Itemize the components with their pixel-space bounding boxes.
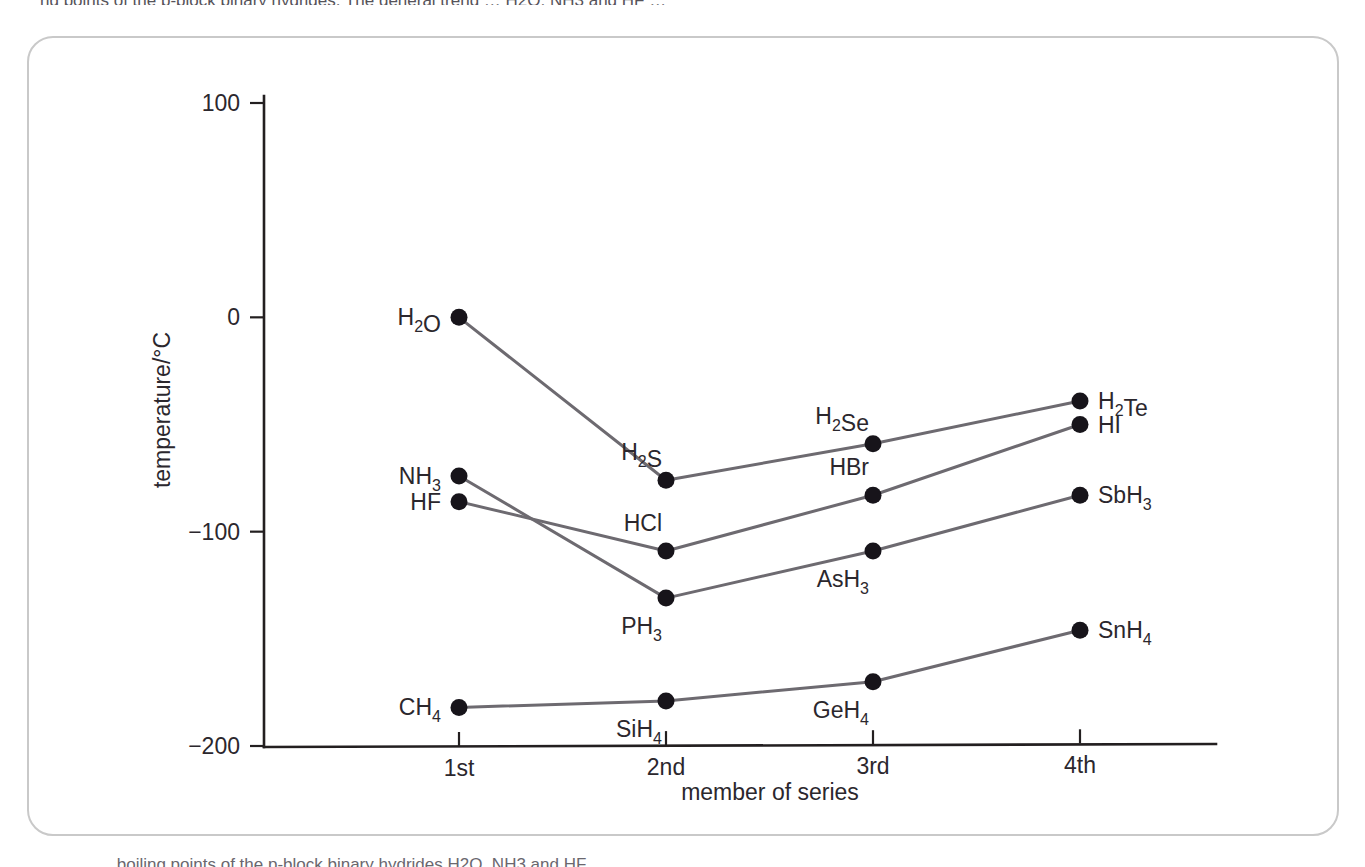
data-point[interactable]: [451, 493, 468, 510]
x-tick-label: 4th: [1064, 752, 1096, 778]
y-tick-label: 100: [202, 90, 240, 116]
line-chart: 1000−100−200 1st2nd3rd4th H2OH2SH2SeH2Te…: [0, 0, 1365, 867]
data-point[interactable]: [451, 309, 468, 326]
data-point[interactable]: [658, 542, 675, 559]
data-points: [451, 309, 1089, 716]
data-point[interactable]: [865, 542, 882, 559]
figure-page: ng points of the p-block binary hydrides…: [0, 0, 1365, 867]
x-tick-label: 2nd: [647, 754, 685, 780]
data-point[interactable]: [658, 692, 675, 709]
data-point[interactable]: [451, 699, 468, 716]
x-axis-ticks: 1st2nd3rd4th: [444, 729, 1096, 781]
y-axis-ticks: 1000−100−200: [188, 90, 264, 759]
data-point[interactable]: [658, 590, 675, 607]
y-tick-label: 0: [227, 304, 240, 330]
data-point-label: HI: [1098, 412, 1121, 438]
series-line: [459, 476, 1080, 598]
y-axis-title: temperature/°C: [149, 332, 175, 488]
data-point[interactable]: [865, 673, 882, 690]
data-point-label: HF: [410, 489, 441, 515]
y-tick-label: −200: [188, 733, 240, 759]
data-point-label: H2O: [398, 304, 441, 337]
x-axis: [264, 744, 1216, 747]
data-point-label: PH3: [621, 613, 662, 644]
data-point-label: SiH4: [616, 716, 662, 747]
data-point[interactable]: [1072, 392, 1089, 409]
data-point[interactable]: [865, 435, 882, 452]
data-point-label: HCl: [624, 510, 662, 536]
x-tick-label: 1st: [444, 755, 475, 781]
data-point[interactable]: [1072, 487, 1089, 504]
x-axis-title: member of series: [681, 779, 859, 805]
data-point[interactable]: [865, 487, 882, 504]
data-point-label: HBr: [829, 454, 869, 480]
data-point[interactable]: [1072, 622, 1089, 639]
x-tick-label: 3rd: [856, 753, 889, 779]
data-point-label: AsH3: [817, 566, 869, 597]
data-point-label: SbH3: [1098, 482, 1152, 513]
series-line: [459, 630, 1080, 707]
point-labels: H2OH2SH2SeH2TeNH3PH3AsH3SbH3HFHClHBrHICH…: [398, 304, 1152, 747]
data-point-label: SnH4: [1098, 617, 1152, 648]
data-point-label: GeH4: [813, 697, 869, 728]
data-point-label: H2Se: [815, 403, 869, 436]
y-tick-label: −100: [188, 519, 240, 545]
data-point-label: H2S: [621, 439, 662, 472]
clipped-caption-bottom: … boiling points of the p-block binary h…: [95, 855, 1295, 867]
series-lines: [459, 317, 1080, 707]
data-point[interactable]: [1072, 416, 1089, 433]
data-point-label: CH4: [399, 694, 441, 725]
data-point[interactable]: [451, 467, 468, 484]
data-point[interactable]: [658, 472, 675, 489]
